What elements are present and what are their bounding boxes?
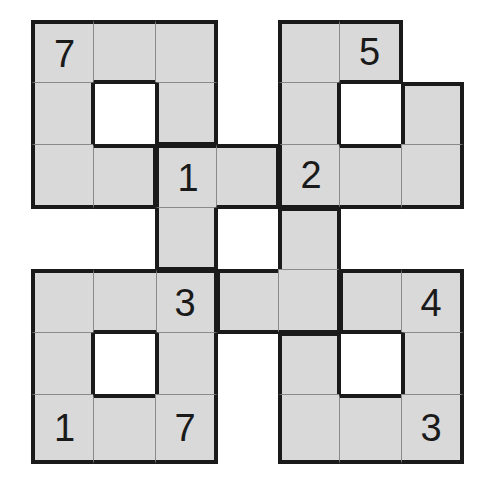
given-digit: 4 — [420, 284, 441, 322]
given-digit: 3 — [420, 409, 441, 447]
given-digit: 1 — [54, 409, 75, 447]
puzzle-board: 752131743 — [32, 21, 463, 463]
grid-cell-r6-c5[interactable] — [339, 394, 403, 464]
grid-cell-r4-c4[interactable] — [278, 269, 341, 334]
grid-cell-r2-c4[interactable]: 2 — [278, 144, 341, 209]
given-digit: 3 — [174, 284, 195, 322]
grid-cell-r0-c5[interactable]: 5 — [339, 20, 403, 84]
grid-cell-r4-c5[interactable] — [339, 269, 403, 334]
grid-cell-r6-c6[interactable]: 3 — [401, 394, 464, 464]
given-digit: 2 — [300, 156, 321, 194]
grid-cell-r0-c2[interactable] — [155, 20, 218, 84]
grid-cell-r3-c4[interactable] — [278, 207, 341, 271]
grid-cell-r4-c0[interactable] — [31, 269, 95, 334]
grid-cell-r2-c2[interactable]: 1 — [155, 144, 218, 209]
grid-cell-r0-c4[interactable] — [278, 20, 341, 84]
grid-cell-r1-c6[interactable] — [401, 82, 464, 146]
grid-cell-r4-c3[interactable] — [216, 269, 280, 334]
grid-cell-r0-c0[interactable]: 7 — [31, 20, 95, 84]
grid-cell-r6-c0[interactable]: 1 — [31, 394, 95, 464]
grid-cell-r5-c0[interactable] — [31, 332, 95, 396]
given-digit: 1 — [177, 159, 198, 197]
grid-cell-r6-c4[interactable] — [278, 394, 341, 464]
grid-cell-r5-c6[interactable] — [401, 332, 464, 396]
grid-cell-r4-c6[interactable]: 4 — [401, 269, 464, 334]
grid-cell-r2-c3[interactable] — [216, 144, 280, 209]
grid-cell-r5-c4[interactable] — [278, 332, 341, 396]
grid-cell-r5-c2[interactable] — [155, 332, 218, 396]
grid-cell-r1-c2[interactable] — [155, 82, 218, 146]
grid-cell-r2-c6[interactable] — [401, 144, 464, 209]
grid-cell-r1-c4[interactable] — [278, 82, 341, 146]
grid-cell-r3-c2[interactable] — [155, 207, 218, 271]
grid-cell-r1-c0[interactable] — [31, 82, 95, 146]
grid-cell-r4-c2[interactable]: 3 — [155, 269, 218, 334]
grid-cell-r4-c1[interactable] — [93, 269, 157, 334]
given-digit: 5 — [359, 33, 380, 71]
given-digit: 7 — [54, 35, 75, 73]
grid-cell-r6-c2[interactable]: 7 — [155, 394, 218, 464]
grid-cell-r2-c1[interactable] — [93, 144, 157, 209]
given-digit: 7 — [174, 409, 195, 447]
grid-cell-r2-c0[interactable] — [31, 144, 95, 209]
grid-cell-r2-c5[interactable] — [339, 144, 403, 209]
grid-cell-r0-c1[interactable] — [93, 20, 157, 84]
grid-cell-r6-c1[interactable] — [93, 394, 157, 464]
